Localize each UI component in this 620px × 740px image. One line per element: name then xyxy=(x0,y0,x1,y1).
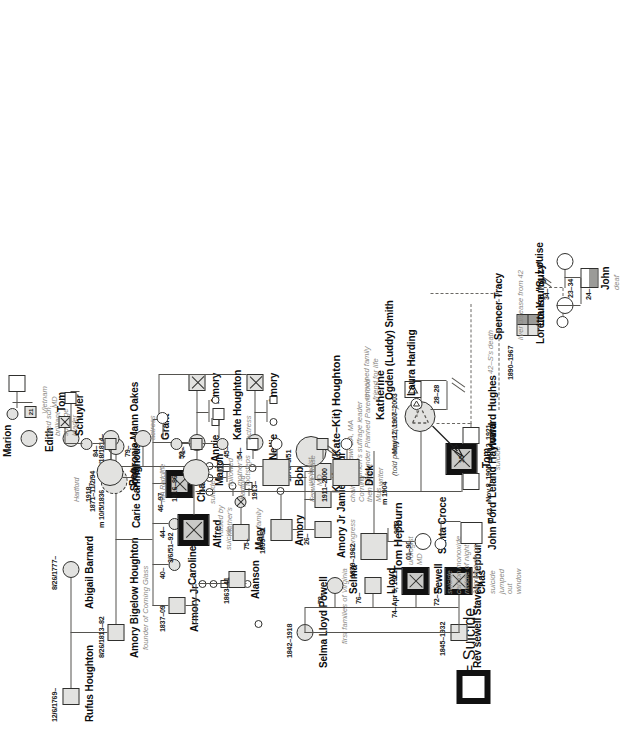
person-leland-hayward[interactable] xyxy=(462,473,479,490)
person-dick-spouse[interactable] xyxy=(340,438,352,450)
louise-relation-note: 23–34 xyxy=(566,279,574,298)
person-selma[interactable] xyxy=(326,577,343,594)
tom-vietnam-link xyxy=(64,428,65,444)
person-amory-g4[interactable] xyxy=(270,519,292,541)
person-howard-hughes[interactable] xyxy=(462,427,479,444)
armory-jr-child-2[interactable] xyxy=(209,580,217,588)
sister-84-age: 84– xyxy=(91,446,99,457)
laura-dash-link xyxy=(416,410,417,417)
person-kate-houghton-spouse[interactable] xyxy=(212,408,224,420)
amory-g4-children-drop xyxy=(292,529,304,530)
person-alfred-suicide[interactable] xyxy=(178,515,208,545)
person-amory-spouse-nellie[interactable] xyxy=(246,374,263,391)
peg-name: Peg xyxy=(128,468,139,486)
alfred-carie-v xyxy=(114,466,193,467)
person-john-ford-spouse[interactable] xyxy=(434,538,446,550)
person-grant-spouse[interactable] xyxy=(156,412,168,424)
marion-note: followed mother's footsteps xyxy=(226,455,252,486)
alanson-dates: 1863–41 xyxy=(222,577,230,604)
person-bob-spouse[interactable] xyxy=(270,438,282,450)
edith-child-drop xyxy=(70,391,79,392)
annie-child-2[interactable] xyxy=(211,396,219,404)
person-marion-top[interactable] xyxy=(20,430,37,447)
person-marion[interactable] xyxy=(182,459,209,486)
sib-drop-kath xyxy=(152,523,168,524)
person-bob[interactable] xyxy=(262,459,289,486)
mary-age: 75– xyxy=(242,539,250,550)
katherine-link xyxy=(420,432,421,492)
kate-houghton-marriage xyxy=(218,420,219,438)
person-peg[interactable] xyxy=(96,459,123,486)
descent-line-g2 xyxy=(115,539,152,540)
john-ford-note: m 42 xyxy=(485,508,493,524)
person-amory-bigelow-houghton[interactable] xyxy=(107,624,124,641)
john-deaf-note: deaf xyxy=(612,275,620,290)
chas-child-1[interactable] xyxy=(205,488,213,496)
person-louise[interactable] xyxy=(556,253,573,270)
nellie-child-2[interactable] xyxy=(269,396,277,404)
annie-children-bar xyxy=(208,400,209,422)
hepburn-parents-line xyxy=(304,632,458,633)
amory-g4-marriage xyxy=(280,495,281,519)
nellie-child-1[interactable] xyxy=(269,418,277,426)
hepburn-marriage-line xyxy=(373,451,374,533)
louise-suzy-name: Louise "Suzy" xyxy=(534,259,545,326)
person-dick[interactable] xyxy=(332,459,359,486)
person-peg-spouse[interactable] xyxy=(104,438,116,450)
person-armory-jr[interactable] xyxy=(168,597,185,614)
person-laura-harding[interactable] xyxy=(410,398,422,410)
spencer-tracy-dates: 1890–1967 xyxy=(506,346,514,380)
kate-houghton-drop xyxy=(202,443,216,444)
hepburn-sibship-bar-bottom xyxy=(458,608,459,633)
marion-top-name: Marion xyxy=(2,425,13,457)
person-marion-spouse[interactable] xyxy=(190,438,202,450)
gen6-spine-right xyxy=(195,491,373,492)
alfred-dates: 3/6/51–92 xyxy=(166,533,174,563)
armory-jr-child-1[interactable] xyxy=(198,580,206,588)
person-tom-vietnam[interactable] xyxy=(58,416,70,428)
rev-sewell-dates: 1845–1932 xyxy=(438,622,446,656)
person-marion-top-spouse[interactable] xyxy=(8,375,25,392)
armory-jr-child-6[interactable] xyxy=(254,620,262,628)
laura-triangle-icon xyxy=(410,398,422,410)
armory-jr-dates: 1837–09 xyxy=(158,605,166,632)
person-santa-croce[interactable] xyxy=(414,533,431,550)
person-sewell-suicide[interactable] xyxy=(402,568,428,594)
mary-link xyxy=(240,508,241,524)
person-amory-spouse-annie[interactable] xyxy=(188,374,205,391)
annie-children-drop xyxy=(196,412,208,413)
sibship-bar-g3 xyxy=(152,420,153,606)
bob-note: urologist MD xyxy=(306,457,323,486)
person-john-deaf[interactable] xyxy=(580,268,598,288)
alanson-name: Alanson xyxy=(250,560,261,599)
rufus-name: Rufus Houghton xyxy=(84,645,95,722)
person-schuyler[interactable] xyxy=(80,438,92,450)
mary-note-right: family xyxy=(254,508,262,528)
amory-jr-congress-age: 26– xyxy=(302,534,310,545)
person-lloyd[interactable] xyxy=(364,577,381,594)
legend xyxy=(456,670,490,704)
person-rufus-houghton[interactable] xyxy=(62,688,79,705)
marriage-line-g1 xyxy=(70,578,71,688)
marion-top-child-1[interactable] xyxy=(6,408,18,420)
laura-harding-name: Laura Harding xyxy=(406,330,417,397)
marion-name: Marion xyxy=(214,454,225,486)
lloyd-link xyxy=(372,594,373,608)
person-amory-jr-congress[interactable] xyxy=(314,521,331,538)
marion-top-children-spine xyxy=(12,402,32,403)
person-alanson[interactable] xyxy=(228,571,245,588)
partner-chain-h xyxy=(470,304,471,424)
person-john-ford[interactable] xyxy=(460,522,482,544)
marion-dates: 1916–86 xyxy=(170,475,178,502)
person-loretta-young[interactable] xyxy=(556,316,568,328)
amory-bigelow-note: founder of Corning Glass xyxy=(141,566,149,650)
peg-dates: 1918– xyxy=(84,483,92,502)
marion-top-child-21[interactable]: 21 xyxy=(24,406,36,418)
person-tom-hepburn[interactable] xyxy=(360,533,387,560)
amory-bigelow-marriage: m 10/5/1836 xyxy=(97,490,105,528)
howard-dash xyxy=(470,423,471,427)
chas-hep-note: suicide jumped out window xyxy=(488,569,522,594)
person-abigail-barnard[interactable] xyxy=(62,561,79,578)
sewell-link xyxy=(415,594,416,608)
person-dick-child[interactable] xyxy=(316,438,328,450)
